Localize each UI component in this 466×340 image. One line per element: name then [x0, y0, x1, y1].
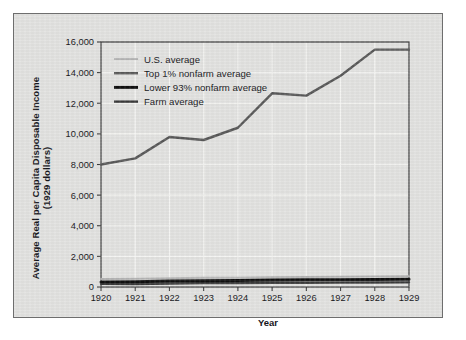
y-tick-label-10000: 10,000 [66, 129, 94, 139]
x-axis-tick-labels: 1920192119221923192419251926192719281929 [91, 293, 420, 303]
y-tick-label-0: 0 [89, 282, 94, 292]
legend-label-farm-average: Farm average [144, 96, 204, 107]
y-tick-label-4000: 4,000 [71, 221, 94, 231]
line-chart: 02,0004,0006,0008,00010,00012,00014,0001… [14, 14, 444, 319]
legend-label-u-s-average: U.S. average [144, 54, 200, 65]
y-tick-label-12000: 12,000 [66, 99, 94, 109]
x-tick-label-1920: 1920 [91, 293, 112, 303]
figure-canvas: 02,0004,0006,0008,00010,00012,00014,0001… [0, 0, 466, 340]
x-tick-label-1928: 1928 [364, 293, 385, 303]
x-tick-label-1925: 1925 [262, 293, 283, 303]
x-tick-label-1926: 1926 [296, 293, 317, 303]
x-axis-tick-marks [101, 287, 409, 291]
x-tick-label-1924: 1924 [228, 293, 249, 303]
x-tick-label-1921: 1921 [125, 293, 146, 303]
x-tick-label-1922: 1922 [159, 293, 180, 303]
legend-label-top-1-nonfarm-average: Top 1% nonfarm average [144, 68, 251, 79]
y-tick-label-2000: 2,000 [71, 252, 94, 262]
x-axis-title: Year [114, 317, 422, 328]
y-tick-label-16000: 16,000 [66, 37, 94, 47]
y-tick-label-6000: 6,000 [71, 191, 94, 201]
chart-panel: 02,0004,0006,0008,00010,00012,00014,0001… [13, 13, 443, 318]
y-axis-tick-labels: 02,0004,0006,0008,00010,00012,00014,0001… [66, 37, 94, 292]
x-tick-label-1927: 1927 [330, 293, 351, 303]
y-tick-label-14000: 14,000 [66, 68, 94, 78]
y-tick-label-8000: 8,000 [71, 160, 94, 170]
x-tick-label-1923: 1923 [193, 293, 214, 303]
x-tick-label-1929: 1929 [399, 293, 420, 303]
legend-label-lower-93-nonfarm-average: Lower 93% nonfarm average [144, 82, 267, 93]
